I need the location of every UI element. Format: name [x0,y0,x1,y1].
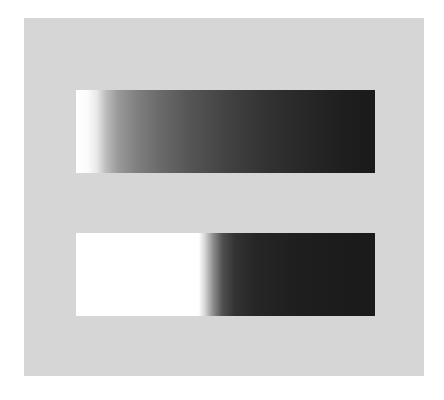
gray-panel [24,18,424,376]
gradient-bar-step [76,233,375,316]
figure-canvas [0,0,444,400]
gradient-bar-gradual [76,90,375,173]
